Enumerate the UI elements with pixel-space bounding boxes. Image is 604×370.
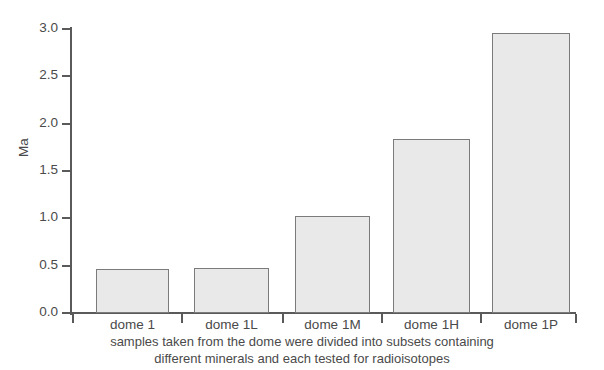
bar-dome-1h [393,139,470,313]
caption-line-2: different minerals and each tested for r… [0,350,604,367]
y-axis-title: Ma [16,138,31,157]
caption-line-1: samples taken from the dome were divided… [0,333,604,350]
y-tick-label: 3.0 [12,20,58,35]
y-tick-mark [62,170,71,172]
bar-dome-1p [492,33,570,313]
bar-dome-1 [96,269,169,313]
y-tick-label: 0.0 [12,304,58,319]
x-tick-label: dome 1 [84,317,181,332]
y-tick-mark [62,217,71,219]
y-tick-label: 0.5 [12,257,58,272]
x-tick-label: dome 1L [182,317,281,332]
x-tick-label: dome 1H [381,317,482,332]
y-tick-mark [62,75,71,77]
bar-chart: Ma 0.00.51.01.52.02.53.0 dome 1dome 1Ldo… [0,0,604,370]
chart-caption: samples taken from the dome were divided… [0,333,604,367]
y-tick-label: 1.0 [12,209,58,224]
x-tick-label: dome 1P [480,317,582,332]
bar-dome-1m [295,216,370,313]
y-tick-label: 2.0 [12,115,58,130]
x-tick-label: dome 1M [283,317,382,332]
bar-dome-1l [194,268,269,313]
y-tick-mark [62,265,71,267]
x-tick-mark [72,314,74,323]
y-tick-label: 1.5 [12,162,58,177]
y-tick-mark [62,123,71,125]
y-tick-mark [62,312,71,314]
y-tick-mark [62,28,71,30]
y-tick-label: 2.5 [12,67,58,82]
